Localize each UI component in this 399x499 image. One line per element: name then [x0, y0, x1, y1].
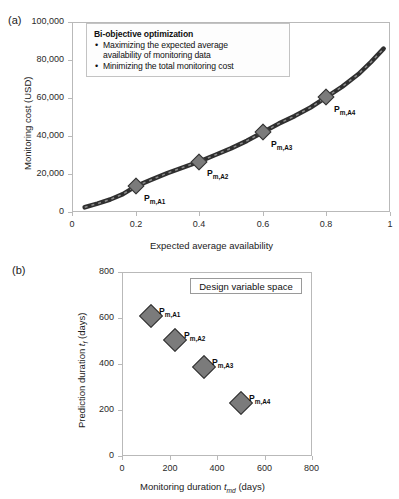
panel-b-xaxis-title-unit: (days) [236, 481, 265, 492]
legend-item-1: • Maximizing the expected average availa… [94, 40, 282, 60]
y-tick-b-1 [118, 410, 122, 411]
x-ticklabel-b-0: 0 [104, 463, 140, 473]
y-ticklabel-a-4: 80,000 [0, 54, 64, 64]
panel-b-yaxis-title-unit: (days) [76, 313, 87, 342]
panel-b-yaxis-title-main: Prediction duration [76, 346, 87, 428]
x-tick-a-2 [199, 212, 200, 216]
panel-a-yaxis-title: Monitoring cost (USD) [22, 77, 33, 170]
panel-a-marker-sub-1: m,A1 [150, 198, 166, 205]
x-tick-a-5 [390, 212, 391, 216]
x-ticklabel-b-4: 800 [294, 463, 330, 473]
panel-b-xaxis-title-sub: md [227, 487, 236, 494]
bullet-icon-1: • [94, 40, 99, 50]
y-tick-b-3 [118, 318, 122, 319]
x-tick-b-0 [122, 456, 123, 460]
x-ticklabel-a-5: 1 [370, 219, 399, 229]
y-ticklabel-b-4: 800 [82, 266, 114, 276]
panel-a-marker-sub-2: m,A2 [213, 173, 229, 180]
panel-b-marker-sub-3: m,A3 [218, 362, 234, 369]
panel-a-marker-label-4: Pm,A4 [334, 104, 355, 116]
legend-item-2-line-1: Minimizing the total monitoring cost [103, 61, 234, 71]
x-ticklabel-a-4: 0.8 [306, 219, 346, 229]
panel-b: (b) 0 200 400 600 800 0 200 400 600 800 … [0, 258, 399, 499]
panel-b-yaxis-title: Prediction duration tf (days) [76, 313, 89, 428]
y-ticklabel-b-0: 0 [82, 450, 114, 460]
panel-a-marker-label-3: Pm,A3 [271, 139, 292, 151]
y-tick-b-2 [118, 364, 122, 365]
legend-item-2: • Minimizing the total monitoring cost [94, 61, 282, 71]
panel-b-xaxis-title-main: Monitoring duration [140, 481, 224, 492]
panel-a-legend-box: Bi-objective optimization • Maximizing t… [86, 23, 290, 77]
x-tick-a-3 [263, 212, 264, 216]
x-tick-b-4 [312, 456, 313, 460]
panel-b-marker-sub-2: m,A2 [190, 335, 206, 342]
panel-a-xaxis-title: Expected average availability [150, 240, 273, 251]
x-ticklabel-b-1: 200 [152, 463, 188, 473]
panel-a-marker-sub-3: m,A3 [277, 144, 293, 151]
legend-item-1-line-2: availability of monitoring data [103, 50, 228, 60]
panel-b-marker-label-2: Pm,A2 [184, 330, 205, 342]
panel-b-marker-sub-1: m,A1 [165, 311, 181, 318]
panel-b-yaxis-title-var: t [76, 344, 87, 347]
x-tick-b-1 [170, 456, 171, 460]
panel-b-marker-sub-4: m,A4 [255, 398, 271, 405]
x-ticklabel-b-3: 600 [247, 463, 283, 473]
panel-a-marker-sub-4: m,A4 [340, 109, 356, 116]
x-ticklabel-a-2: 0.4 [179, 219, 219, 229]
panel-b-xaxis-title: Monitoring duration tmd (days) [140, 481, 265, 494]
panel-a: (a) 0 20,000 40,000 60,000 80,000 100,00… [0, 0, 399, 258]
x-tick-a-0 [72, 212, 73, 216]
panel-b-label: (b) [12, 264, 25, 276]
panel-b-textbox: Design variable space [190, 278, 302, 294]
panel-a-marker-label-2: Pm,A2 [207, 168, 228, 180]
x-tick-b-3 [265, 456, 266, 460]
x-ticklabel-a-3: 0.6 [243, 219, 283, 229]
x-tick-a-1 [136, 212, 137, 216]
panel-b-marker-label-3: Pm,A3 [212, 357, 233, 369]
x-tick-b-2 [217, 456, 218, 460]
figure-root: (a) 0 20,000 40,000 60,000 80,000 100,00… [0, 0, 399, 499]
x-ticklabel-a-1: 0.2 [116, 219, 156, 229]
x-ticklabel-a-0: 0 [52, 219, 92, 229]
panel-b-marker-label-4: Pm,A4 [249, 393, 270, 405]
y-ticklabel-a-5: 100,000 [0, 16, 64, 26]
legend-title: Bi-objective optimization [94, 29, 282, 39]
x-tick-a-4 [326, 212, 327, 216]
panel-a-marker-label-1: Pm,A1 [144, 193, 165, 205]
y-tick-b-4 [118, 272, 122, 273]
legend-item-1-line-1: Maximizing the expected average [103, 40, 228, 50]
bullet-icon-2: • [94, 61, 99, 71]
x-ticklabel-b-2: 400 [199, 463, 235, 473]
y-ticklabel-a-0: 0 [0, 206, 64, 216]
panel-b-marker-label-1: Pm,A1 [159, 306, 180, 318]
